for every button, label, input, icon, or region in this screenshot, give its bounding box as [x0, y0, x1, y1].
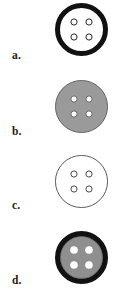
button-b-graphic — [54, 79, 109, 134]
button-b-label: b. — [12, 126, 42, 138]
button-c-hole-4 — [86, 186, 92, 192]
button-a-hole-2 — [86, 19, 92, 25]
button-d-hole-4 — [86, 262, 92, 268]
button-d-graphic — [54, 230, 109, 285]
button-variants-figure: a.b.c.d. — [0, 0, 127, 308]
button-a-row: a. — [0, 0, 127, 77]
button-d-label: d. — [12, 275, 42, 287]
button-c-hole-2 — [86, 171, 92, 177]
button-c-hole-1 — [71, 171, 77, 177]
button-c — [54, 154, 109, 209]
button-d-hole-3 — [71, 262, 77, 268]
button-a-hole-3 — [71, 34, 77, 40]
button-c-hole-3 — [71, 186, 77, 192]
button-d — [54, 230, 109, 285]
button-d-hole-1 — [71, 247, 77, 253]
button-d-hole-2 — [86, 247, 92, 253]
button-b-hole-4 — [86, 111, 92, 117]
button-d-row: d. — [0, 228, 127, 305]
button-c-graphic — [54, 154, 109, 209]
button-c-row: c. — [0, 152, 127, 229]
button-a-label: a. — [12, 50, 42, 62]
button-b — [54, 79, 109, 134]
button-a-hole-1 — [71, 19, 77, 25]
button-a-hole-4 — [86, 34, 92, 40]
button-b-hole-2 — [86, 96, 92, 102]
button-c-label: c. — [12, 200, 42, 212]
button-a-graphic — [54, 2, 109, 57]
button-b-hole-3 — [71, 111, 77, 117]
button-a — [54, 2, 109, 57]
button-b-hole-1 — [71, 96, 77, 102]
button-b-row: b. — [0, 77, 127, 154]
